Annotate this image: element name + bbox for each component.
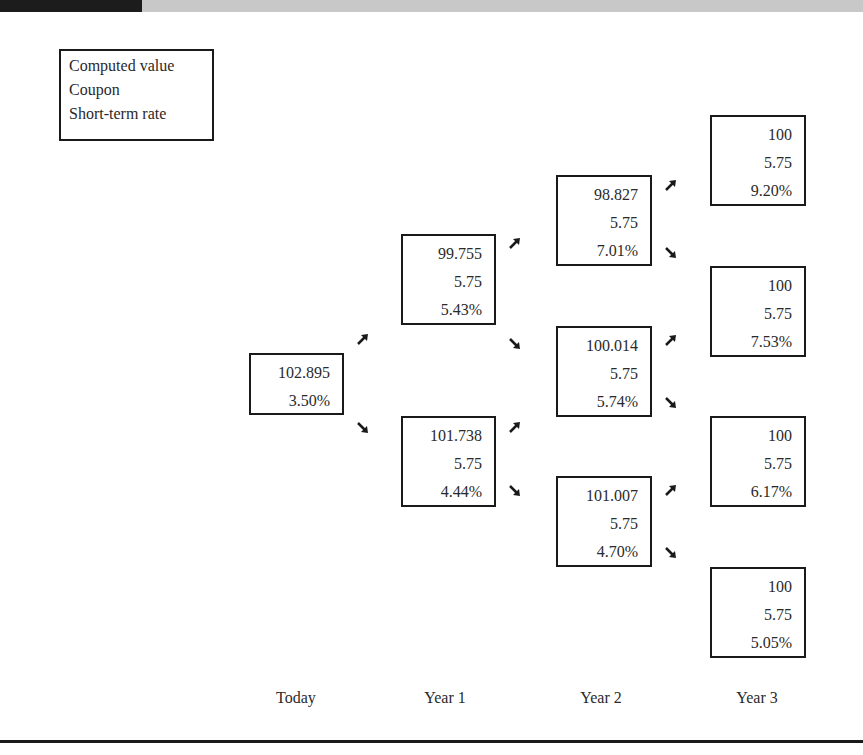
node-coupon: 5.75	[712, 601, 792, 629]
node-value: 100	[712, 422, 792, 450]
node-rate: 7.53%	[712, 328, 792, 356]
arrow-up-right-icon	[664, 334, 677, 347]
node-value: 100	[712, 272, 792, 300]
node-rate: 4.70%	[558, 538, 638, 566]
node-rate: 5.74%	[558, 388, 638, 416]
node-year2-ud: 100.014 5.75 5.74%	[556, 326, 652, 417]
arrow-up-right-icon	[508, 421, 521, 434]
legend-computed-value: Computed value	[69, 54, 212, 78]
period-label-today: Today	[251, 689, 341, 707]
period-label-year3: Year 3	[712, 689, 802, 707]
node-coupon: 5.75	[558, 209, 638, 237]
node-coupon: 5.75	[403, 450, 482, 478]
arrow-up-right-icon	[356, 333, 369, 346]
node-rate: 7.01%	[558, 237, 638, 265]
period-label-year2: Year 2	[556, 689, 646, 707]
node-rate: 9.20%	[712, 177, 792, 205]
arrow-down-right-icon	[508, 484, 521, 497]
node-year3-uuu: 100 5.75 9.20%	[710, 115, 806, 206]
node-year3-uud: 100 5.75 7.53%	[710, 266, 806, 357]
arrow-down-right-icon	[664, 396, 677, 409]
header-dark-block	[0, 0, 142, 12]
arrow-up-right-icon	[508, 237, 521, 250]
arrow-down-right-icon	[664, 546, 677, 559]
node-coupon: 5.75	[403, 268, 482, 296]
node-year3-ddd: 100 5.75 5.05%	[710, 567, 806, 658]
node-today: 102.895 3.50%	[249, 353, 344, 415]
node-year2-uu: 98.827 5.75 7.01%	[556, 175, 652, 266]
node-rate: 3.50%	[251, 387, 330, 415]
node-value: 99.755	[403, 240, 482, 268]
node-year1-up: 99.755 5.75 5.43%	[401, 234, 496, 325]
node-value: 101.738	[403, 422, 482, 450]
node-year1-down: 101.738 5.75 4.44%	[401, 416, 496, 507]
node-coupon: 5.75	[558, 510, 638, 538]
node-coupon: 5.75	[712, 149, 792, 177]
node-coupon: 5.75	[712, 300, 792, 328]
arrow-down-right-icon	[508, 337, 521, 350]
arrow-up-right-icon	[664, 484, 677, 497]
node-year3-udd: 100 5.75 6.17%	[710, 416, 806, 507]
node-value: 100	[712, 121, 792, 149]
legend-coupon: Coupon	[69, 78, 212, 102]
node-value: 98.827	[558, 181, 638, 209]
node-value: 102.895	[251, 359, 330, 387]
arrow-down-right-icon	[664, 246, 677, 259]
node-year2-dd: 101.007 5.75 4.70%	[556, 476, 652, 567]
arrow-down-right-icon	[356, 421, 369, 434]
node-rate: 6.17%	[712, 478, 792, 506]
node-value: 101.007	[558, 482, 638, 510]
arrow-up-right-icon	[664, 179, 677, 192]
node-value: 100	[712, 573, 792, 601]
node-coupon: 5.75	[558, 360, 638, 388]
legend-box: Computed value Coupon Short-term rate	[59, 49, 214, 141]
legend-short-term-rate: Short-term rate	[69, 102, 212, 126]
node-rate: 5.05%	[712, 629, 792, 657]
node-coupon: 5.75	[712, 450, 792, 478]
period-label-year1: Year 1	[400, 689, 490, 707]
node-rate: 4.44%	[403, 478, 482, 506]
node-rate: 5.43%	[403, 296, 482, 324]
node-value: 100.014	[558, 332, 638, 360]
bottom-rule	[0, 740, 863, 743]
